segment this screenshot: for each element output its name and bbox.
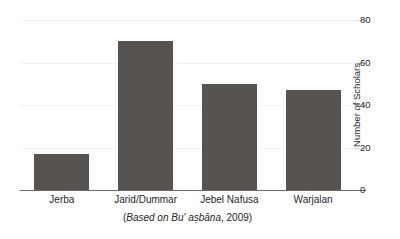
x-axis-tick-labels: JerbaJarid/DummarJebel NafusaWarjalan	[20, 193, 355, 209]
y-tick-label: 0	[360, 185, 365, 195]
x-tick-label: Warjalan	[271, 193, 355, 207]
bar	[118, 41, 173, 190]
bar-chart-figure: 020406080 Number of Scholars JerbaJarid/…	[0, 0, 400, 239]
chart-caption: (Based on Bu' aṣbāna, 2009)	[20, 211, 355, 225]
bar	[34, 154, 89, 190]
y-axis-title: Number of Scholars	[352, 63, 363, 147]
bar	[202, 84, 257, 190]
bar	[286, 90, 341, 190]
y-axis-title-container: Number of Scholars	[381, 20, 397, 190]
caption-source-italic: Based on Bu' aṣbāna	[126, 212, 221, 223]
x-tick-label: Jerba	[20, 193, 104, 207]
y-tick-label: 80	[360, 15, 371, 25]
x-tick-label: Jebel Nafusa	[188, 193, 272, 207]
plot-area	[20, 20, 355, 190]
caption-year: , 2009)	[221, 212, 252, 223]
x-tick-label: Jarid/Dummar	[104, 193, 188, 207]
bars-layer	[20, 20, 355, 190]
x-axis-baseline	[20, 190, 355, 191]
